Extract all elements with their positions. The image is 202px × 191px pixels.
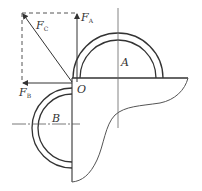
force-diagram: FC FA FB O A B (0, 0, 202, 191)
label-fa: FA (80, 11, 94, 24)
profile-curve (72, 78, 188, 182)
label-fc: FC (35, 19, 49, 32)
label-point-a: A (120, 56, 129, 69)
label-point-b: B (51, 112, 60, 125)
semicircle-b (32, 88, 72, 168)
label-fb: FB (18, 86, 32, 99)
label-origin: O (77, 83, 86, 96)
